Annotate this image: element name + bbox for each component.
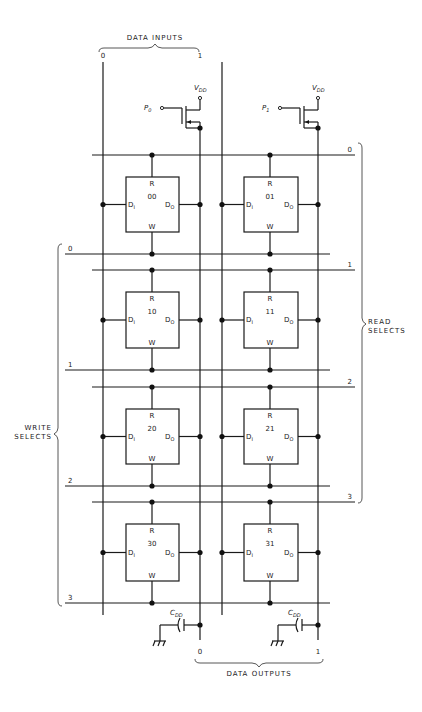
arrow-icon — [305, 120, 309, 124]
memory-cell-00 — [103, 155, 200, 254]
vdd-terminal-icon — [316, 96, 319, 99]
memory-cell-20 — [103, 387, 200, 486]
read-selects-label-1: READ — [368, 318, 391, 326]
ground-icon — [271, 641, 284, 646]
write-pin-label: W — [149, 223, 156, 231]
junction-dot — [315, 125, 320, 130]
junction-dot — [267, 152, 272, 157]
memory-cell-01 — [222, 155, 318, 254]
read-pin-label: R — [268, 527, 273, 535]
junction-dot — [149, 600, 154, 605]
ground-icon — [153, 641, 166, 646]
write-selects-brace — [54, 244, 62, 606]
cell-address-label: 01 — [266, 193, 275, 201]
read-pin-label: R — [150, 527, 155, 535]
precharge-gate-label-0: P0 — [144, 104, 151, 113]
junction-dot — [315, 550, 320, 555]
write-pin-label: W — [149, 339, 156, 347]
junction-dot — [100, 317, 105, 322]
write-select-3-label: 3 — [68, 594, 72, 602]
read-select-0-label: 0 — [348, 146, 352, 154]
write-pin-label: W — [149, 455, 156, 463]
junction-dot — [315, 202, 320, 207]
data-outputs-label: DATA OUTPUTS — [226, 670, 291, 678]
read-pin-label: R — [268, 295, 273, 303]
write-select-0-label: 0 — [68, 245, 72, 253]
vdd-label-1: VDD — [312, 84, 325, 93]
junction-dot — [149, 384, 154, 389]
read-pin-label: R — [268, 412, 273, 420]
output-capacitor-0 — [153, 618, 200, 646]
data-output-1-label: 1 — [316, 648, 320, 656]
junction-dot — [149, 499, 154, 504]
cell-address-label: 00 — [148, 193, 157, 201]
junction-dot — [219, 317, 224, 322]
read-select-2-label: 2 — [348, 378, 352, 386]
junction-dot — [100, 202, 105, 207]
memory-cell-10 — [103, 270, 200, 370]
data-outputs-brace — [195, 659, 323, 667]
junction-dot — [197, 550, 202, 555]
junction-dot — [149, 152, 154, 157]
junction-dot — [100, 550, 105, 555]
read-select-1-label: 1 — [348, 261, 352, 269]
cdd-label-1: CDD — [288, 609, 301, 618]
junction-dot — [149, 483, 154, 488]
junction-dot — [267, 483, 272, 488]
write-pin-label: W — [267, 339, 274, 347]
vdd-terminal-icon — [198, 96, 201, 99]
read-pin-label: R — [268, 180, 273, 188]
cdd-label-0: CDD — [170, 609, 183, 618]
junction-dot — [197, 434, 202, 439]
vdd-label-0: VDD — [194, 84, 207, 93]
read-pin-label: R — [150, 412, 155, 420]
junction-dot — [149, 367, 154, 372]
junction-dot — [267, 267, 272, 272]
precharge-transistor-1 — [278, 96, 319, 128]
memory-cell-30 — [103, 502, 200, 603]
junction-dot — [267, 367, 272, 372]
junction-dot — [315, 622, 320, 627]
read-selects-brace — [358, 143, 366, 503]
data-input-1-label: 1 — [198, 52, 202, 60]
write-pin-label: W — [149, 572, 156, 580]
write-pin-label: W — [267, 223, 274, 231]
junction-dot — [315, 317, 320, 322]
output-capacitor-1 — [271, 618, 318, 646]
data-inputs-brace — [99, 44, 199, 52]
read-selects-label-2: SELECTS — [368, 327, 406, 335]
junction-dot — [267, 251, 272, 256]
cell-address-label: 10 — [148, 308, 157, 316]
write-select-1-label: 1 — [68, 361, 72, 369]
arrow-icon — [187, 120, 191, 124]
junction-dot — [219, 434, 224, 439]
junction-dot — [219, 202, 224, 207]
junction-dot — [149, 251, 154, 256]
data-input-0-label: 0 — [101, 52, 105, 60]
junction-dot — [267, 499, 272, 504]
junction-dot — [100, 434, 105, 439]
memory-cell-11 — [222, 270, 318, 370]
cell-address-label: 31 — [266, 540, 275, 548]
junction-dot — [267, 384, 272, 389]
data-inputs-label: DATA INPUTS — [127, 34, 184, 42]
cell-address-label: 11 — [266, 308, 275, 316]
junction-dot — [267, 600, 272, 605]
junction-dot — [197, 317, 202, 322]
memory-cell-31 — [222, 502, 318, 603]
junction-dot — [149, 267, 154, 272]
memory-cell-21 — [222, 387, 318, 486]
junction-dot — [315, 434, 320, 439]
write-select-2-label: 2 — [68, 477, 72, 485]
junction-dot — [219, 550, 224, 555]
memory-array-schematic: DATA INPUTS01VDDP0VDDP101230123RW00DIDOR… — [0, 0, 422, 712]
write-pin-label: W — [267, 455, 274, 463]
read-pin-label: R — [150, 295, 155, 303]
gate-terminal-icon — [278, 106, 281, 109]
cell-address-label: 30 — [148, 540, 157, 548]
read-pin-label: R — [150, 180, 155, 188]
gate-terminal-icon — [160, 106, 163, 109]
read-select-3-label: 3 — [348, 493, 352, 501]
write-selects-label-2: SELECTS — [14, 433, 52, 441]
precharge-gate-label-1: P1 — [262, 104, 269, 113]
